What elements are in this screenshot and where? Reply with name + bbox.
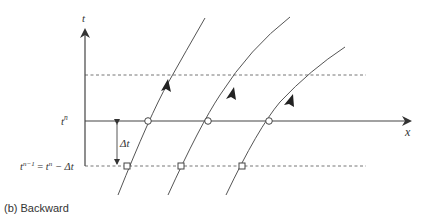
characteristics-diagram: t x tn tn−1 = tn − Δt Δt xyxy=(0,0,430,216)
characteristic-curve-2 xyxy=(168,17,290,195)
curve-2-arrowhead-icon xyxy=(226,87,236,100)
arrival-point-circle-2 xyxy=(205,118,212,125)
departure-point-square-3 xyxy=(239,163,245,169)
t-axis-label: t xyxy=(82,12,86,24)
figure-caption: (b) Backward xyxy=(4,202,69,214)
departure-point-square-2 xyxy=(178,163,184,169)
arrival-point-circle-3 xyxy=(266,118,273,125)
t-n-minus-1-label: tn−1 = tn − Δt xyxy=(20,160,75,173)
delta-t-label: Δt xyxy=(119,137,130,149)
departure-point-square-1 xyxy=(124,163,130,169)
arrival-point-circle-1 xyxy=(145,118,152,125)
x-axis-label: x xyxy=(404,125,411,139)
characteristic-curve-1 xyxy=(118,18,205,195)
t-n-label: tn xyxy=(61,113,68,127)
